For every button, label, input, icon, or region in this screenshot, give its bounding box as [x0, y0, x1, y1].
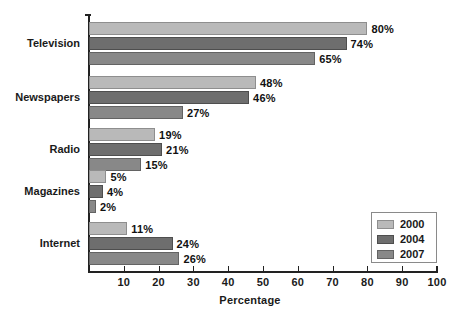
bar-internet-2000: [89, 222, 127, 235]
x-tick-label: 100: [428, 276, 447, 288]
category-label-television: Television: [27, 37, 80, 49]
bar-value-label: 27%: [187, 107, 210, 119]
x-tick: [159, 266, 160, 272]
x-tick-label: 40: [222, 276, 235, 288]
x-tick: [437, 266, 438, 272]
x-tick-label: 30: [187, 276, 200, 288]
x-tick: [124, 266, 125, 272]
bar-value-label: 65%: [319, 53, 342, 65]
bar-newspapers-2000: [89, 76, 256, 89]
bar-value-label: 26%: [183, 253, 206, 265]
x-tick: [193, 266, 194, 272]
bar-value-label: 80%: [371, 23, 394, 35]
x-tick: [298, 266, 299, 272]
bar-television-2000: [89, 22, 367, 35]
category-label-internet: Internet: [40, 237, 80, 249]
bar-value-label: 46%: [253, 92, 276, 104]
x-tick: [402, 266, 403, 272]
x-tick-label: 60: [291, 276, 304, 288]
category-label-newspapers: Newspapers: [15, 91, 80, 103]
bar-radio-2000: [89, 128, 155, 141]
legend-label-2004: 2004: [400, 234, 424, 245]
x-tick-label: 80: [361, 276, 374, 288]
bar-chart: 102030405060708090100 TelevisionNewspape…: [0, 0, 462, 322]
legend-label-2007: 2007: [400, 249, 424, 260]
x-tick-label: 20: [152, 276, 165, 288]
bar-value-label: 4%: [107, 186, 123, 198]
legend-swatch-2000: [377, 220, 394, 229]
bar-value-label: 19%: [159, 129, 182, 141]
bar-magazines-2004: [89, 185, 103, 198]
bar-newspapers-2004: [89, 91, 249, 104]
bar-value-label: 5%: [110, 171, 126, 183]
bar-value-label: 2%: [100, 201, 116, 213]
legend-item: 2000: [377, 217, 436, 231]
x-tick: [333, 266, 334, 272]
bar-internet-2007: [89, 252, 179, 265]
bar-magazines-2007: [89, 200, 96, 213]
x-tick: [228, 266, 229, 272]
legend-swatch-2007: [377, 250, 394, 259]
bar-television-2004: [89, 37, 347, 50]
bar-value-label: 74%: [351, 38, 374, 50]
bar-television-2007: [89, 52, 315, 65]
chart-legend: 2000 2004 2007: [371, 212, 437, 263]
legend-label-2000: 2000: [400, 219, 424, 230]
bar-value-label: 21%: [166, 144, 189, 156]
x-tick-label: 70: [326, 276, 339, 288]
category-label-radio: Radio: [49, 143, 80, 155]
bar-newspapers-2007: [89, 106, 183, 119]
legend-swatch-2004: [377, 235, 394, 244]
x-tick-label: 90: [396, 276, 409, 288]
x-tick-label: 50: [257, 276, 270, 288]
bar-magazines-2000: [89, 170, 106, 183]
x-axis-title-text: Percentage: [219, 294, 280, 306]
category-label-magazines: Magazines: [24, 185, 80, 197]
x-axis-title: Percentage: [0, 294, 462, 306]
x-tick-label: 10: [117, 276, 130, 288]
bar-radio-2004: [89, 143, 162, 156]
legend-item: 2007: [377, 247, 436, 261]
bar-value-label: 48%: [260, 77, 283, 89]
bar-value-label: 15%: [145, 159, 168, 171]
y-axis-top-cap: [85, 14, 91, 16]
bar-internet-2004: [89, 237, 173, 250]
x-tick: [367, 266, 368, 272]
bar-value-label: 24%: [177, 238, 200, 250]
bar-value-label: 11%: [131, 223, 153, 235]
legend-item: 2004: [377, 232, 436, 246]
x-tick: [263, 266, 264, 272]
